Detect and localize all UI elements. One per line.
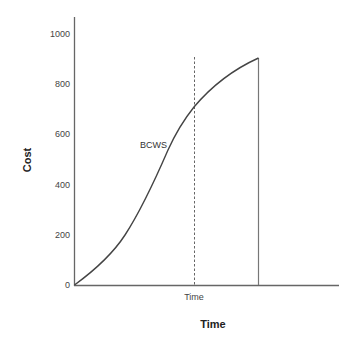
bcws-label: BCWS (140, 140, 167, 150)
y-tick-400: 400 (55, 180, 70, 190)
y-tick-600: 600 (55, 129, 70, 139)
y-tick-1000: 1000 (50, 29, 70, 39)
y-axis-title: Cost (21, 147, 33, 172)
bcws-curve (75, 58, 259, 285)
y-tick-800: 800 (55, 79, 70, 89)
y-tick-200: 200 (55, 230, 70, 240)
y-tick-labels: 0 200 400 600 800 1000 (50, 29, 70, 290)
x-marker-label: Time (184, 292, 204, 302)
x-axis-title: Time (200, 318, 225, 330)
y-tick-0: 0 (65, 280, 70, 290)
chart: 0 200 400 600 800 1000 Cost Time Time BC… (0, 0, 355, 352)
